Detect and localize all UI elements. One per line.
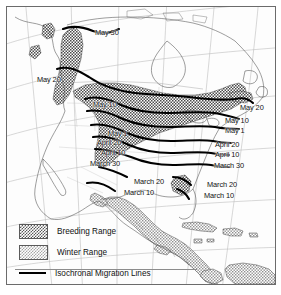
isochron-label-east-may-1: May 1 xyxy=(225,127,245,135)
isochron-march-10 xyxy=(87,182,115,191)
legend-row-winter: Winter Range xyxy=(19,244,205,261)
isochron-label-east-may-20: May 20 xyxy=(240,104,264,112)
isochron-label-southeast-march-10: March 10 xyxy=(204,192,234,200)
winter-range-swatch xyxy=(19,245,48,260)
isochron-label-east-march-30: March 30 xyxy=(214,162,244,170)
breeding-range-label: Breeding Range xyxy=(57,227,116,236)
isochron-label-west-march-30: March 30 xyxy=(90,160,120,168)
map-legend: Breeding Range Winter Range Isochronal M… xyxy=(19,223,205,280)
isochron-label-east-may-10: May 10 xyxy=(225,117,249,125)
isochron-label-east-april-20: April 20 xyxy=(215,141,239,149)
map-frame: May 30 May 20 May 10 May 1 April 20 Apri… xyxy=(6,6,276,285)
isochron-label-west-may-20: May 20 xyxy=(37,76,61,84)
isochron-label-east-april-10: April 10 xyxy=(215,151,239,159)
isochron-label-southeast-march-20: March 20 xyxy=(207,181,237,189)
breeding-range-swatch xyxy=(19,224,48,239)
isochron-label-south-march-20: March 20 xyxy=(134,178,164,186)
isochron-label-south-march-10: March 10 xyxy=(124,189,154,197)
isochron-label-west-april-20: April 20 xyxy=(97,139,121,147)
isochron-march-20 xyxy=(99,167,127,177)
migration-map-figure: May 30 May 20 May 10 May 1 April 20 Apri… xyxy=(0,0,281,295)
isochron-label-west-april-10: April 10 xyxy=(101,149,125,157)
isochron-label-west-may-1: May 1 xyxy=(108,130,128,138)
legend-divider xyxy=(15,269,197,270)
isochron-label-west-may-10: May 10 xyxy=(93,101,117,109)
isochron-line-sample xyxy=(19,272,46,274)
isochron-label-may-30: May 30 xyxy=(95,29,119,37)
winter-range-label: Winter Range xyxy=(57,248,107,257)
legend-row-breeding: Breeding Range xyxy=(19,223,205,240)
